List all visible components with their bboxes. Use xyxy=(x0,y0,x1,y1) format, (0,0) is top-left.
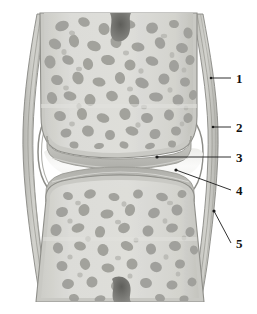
joint-illustration: 1 2 3 4 5 xyxy=(0,0,257,314)
leader-dot-2 xyxy=(212,126,215,129)
upper-bone-epiphysis xyxy=(40,13,198,169)
bottom-margin xyxy=(0,302,257,314)
label-3: 3 xyxy=(236,150,243,165)
leader-dot-4 xyxy=(174,168,177,171)
leader-dot-5 xyxy=(212,209,215,212)
synovial-joint-figure: 1 2 3 4 5 xyxy=(0,0,257,314)
leader-line-5 xyxy=(214,211,231,243)
leader-dot-3 xyxy=(155,155,158,158)
label-1: 1 xyxy=(236,71,243,86)
label-2: 2 xyxy=(236,120,243,135)
label-5: 5 xyxy=(236,236,243,251)
label-4: 4 xyxy=(236,183,243,198)
leader-dot-1 xyxy=(210,77,213,80)
number-labels-group: 1 2 3 4 5 xyxy=(236,71,243,251)
lower-bone-epiphysis xyxy=(36,167,204,304)
